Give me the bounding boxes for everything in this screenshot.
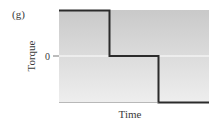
x-axis-label: Time (119, 108, 142, 120)
y-axis-label: Torque (25, 40, 37, 71)
torque-chart: 0 (g) Torque Time (0, 0, 216, 128)
panel-label: (g) (12, 8, 25, 21)
y-tick-label-zero: 0 (45, 51, 50, 62)
